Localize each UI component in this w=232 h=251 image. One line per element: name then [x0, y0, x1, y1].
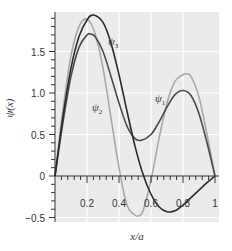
y-tick-label: 1.0	[31, 88, 45, 99]
x-tick-label: 1	[212, 198, 218, 209]
plot-background	[55, 12, 219, 222]
y-axis-title: ψ(x)	[3, 98, 16, 117]
y-tick-label: 1.5	[31, 47, 45, 58]
x-tick-label: 0.2	[80, 198, 94, 209]
x-tick-label: 0.6	[144, 198, 158, 209]
x-tick-label: 0.4	[112, 198, 126, 209]
chart: 0.20.40.60.81−0.500.51.01.5 ψ1ψ2ψ3 x/a ψ…	[0, 0, 232, 251]
y-tick-label: −0.5	[25, 213, 45, 224]
y-tick-label: 0	[39, 171, 45, 182]
x-tick-label: 0.8	[176, 198, 190, 209]
y-tick-label: 0.5	[31, 130, 45, 141]
x-axis-title: x/a	[129, 230, 144, 242]
